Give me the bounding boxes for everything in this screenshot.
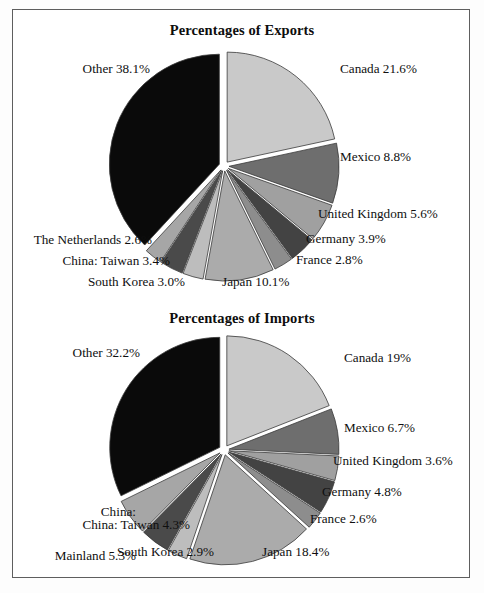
slice-label-japan: Japan 18.4% [262, 545, 329, 560]
chart-panel-exports: Percentages of Exports Canada 21.6% Mexi… [0, 0, 484, 300]
slice-label-france: France 2.8% [296, 253, 363, 268]
slice-label-other: Other 38.1% [0, 62, 150, 77]
slice-label-other: Other 32.2% [0, 346, 140, 361]
slice-label-china-taiwan: China: Taiwan 3.4% [0, 254, 170, 269]
slice-label-japan: Japan 10.1% [222, 275, 289, 290]
slice-label-canada: Canada 19% [344, 351, 411, 366]
slice-label-south-korea: South Korea 3.0% [0, 275, 185, 290]
slice-label-china-mainland-line1: China: [0, 505, 136, 520]
slice-label-united-kingdom: United Kingdom 5.6% [318, 207, 438, 222]
pie-slice [227, 52, 335, 162]
slice-label-china-mainland-line2: Mainland 5.3% [0, 549, 136, 564]
slice-label-china-mainland: China: Mainland 5.3% [0, 475, 136, 593]
slice-label-france: France 2.6% [310, 512, 377, 527]
figure-page: Percentages of Exports Canada 21.6% Mexi… [0, 0, 484, 593]
slice-label-netherlands: The Netherlands 2.6% [0, 233, 152, 248]
slice-label-germany: Germany 3.9% [306, 232, 386, 247]
slice-label-canada: Canada 21.6% [340, 62, 417, 77]
slice-label-mexico: Mexico 8.8% [340, 150, 411, 165]
slice-label-mexico: Mexico 6.7% [344, 421, 415, 436]
slice-label-united-kingdom: United Kingdom 3.6% [333, 454, 453, 469]
slice-label-germany: Germany 4.8% [322, 485, 402, 500]
chart-panel-imports: Percentages of Imports Canada 19% Mexico… [0, 298, 484, 593]
